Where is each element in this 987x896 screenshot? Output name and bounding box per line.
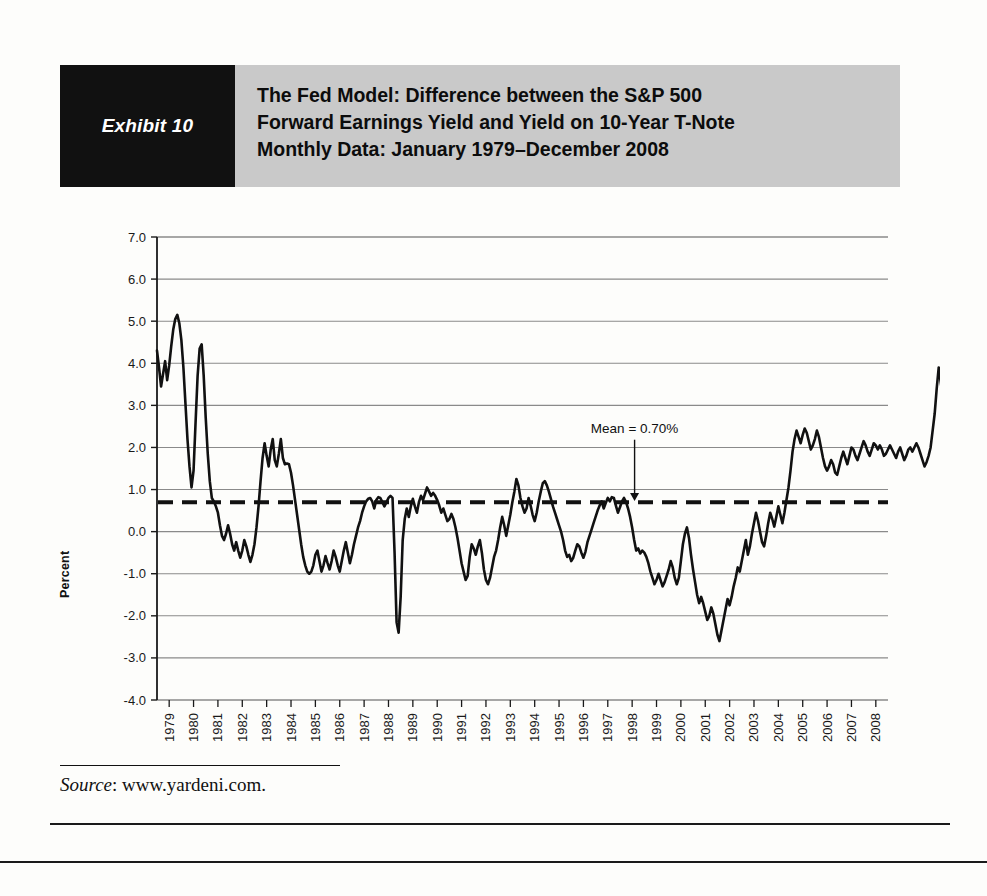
x-axis-tick-label: 1991 bbox=[454, 713, 469, 742]
exhibit-title-line-1: The Fed Model: Difference between the S&… bbox=[257, 82, 886, 109]
source-line: Source: www.yardeni.com. bbox=[60, 774, 266, 796]
y-axis-tick-label: 3.0 bbox=[128, 398, 146, 413]
x-axis-tick-label: 1998 bbox=[625, 713, 640, 742]
x-axis-tick-label: 1982 bbox=[235, 713, 250, 742]
mean-annotation-arrow-head bbox=[630, 493, 639, 501]
line-chart: 7.06.05.04.03.02.01.00.0-1.0-2.0-3.0-4.0… bbox=[60, 200, 940, 760]
exhibit-page: Exhibit 10 The Fed Model: Difference bet… bbox=[0, 0, 987, 896]
y-axis-tick-label: 5.0 bbox=[128, 314, 146, 329]
x-axis-tick-label: 1994 bbox=[527, 713, 542, 742]
y-axis-tick-label: -4.0 bbox=[124, 693, 146, 708]
source-value: www.yardeni.com. bbox=[122, 774, 266, 795]
exhibit-title-line-2: Forward Earnings Yield and Yield on 10-Y… bbox=[257, 109, 886, 136]
x-axis-tick-label: 2003 bbox=[746, 713, 761, 742]
x-axis-tick-label: 1997 bbox=[600, 713, 615, 742]
x-axis-tick-label: 1986 bbox=[332, 713, 347, 742]
x-axis-tick-label: 1990 bbox=[430, 713, 445, 742]
x-axis-tick-label: 1989 bbox=[405, 713, 420, 742]
x-axis-tick-label: 1980 bbox=[186, 713, 201, 742]
x-axis-tick-label: 2001 bbox=[698, 713, 713, 742]
x-axis-tick-label: 2007 bbox=[844, 713, 859, 742]
x-axis-tick-label: 2004 bbox=[771, 713, 786, 742]
x-axis-tick-label: 1979 bbox=[162, 713, 177, 742]
page-rule-bottom bbox=[0, 861, 987, 863]
y-axis-tick-label: 2.0 bbox=[128, 440, 146, 455]
x-axis-tick-label: 1999 bbox=[649, 713, 664, 742]
mean-annotation-label: Mean = 0.70% bbox=[591, 421, 678, 436]
x-axis-tick-label: 1984 bbox=[284, 713, 299, 742]
y-axis-tick-label: -1.0 bbox=[124, 566, 146, 581]
x-axis-tick-label: 1987 bbox=[357, 713, 372, 742]
exhibit-header: Exhibit 10 The Fed Model: Difference bet… bbox=[60, 65, 900, 187]
page-rule-middle bbox=[50, 823, 950, 825]
y-axis-tick-label: 7.0 bbox=[128, 230, 146, 245]
exhibit-number-badge: Exhibit 10 bbox=[60, 65, 235, 187]
source-label: Source bbox=[60, 774, 112, 795]
y-axis-tick-label: 4.0 bbox=[128, 356, 146, 371]
y-axis-tick-label: -2.0 bbox=[124, 608, 146, 623]
y-axis-tick-label: 1.0 bbox=[128, 482, 146, 497]
x-axis-tick-label: 1981 bbox=[210, 713, 225, 742]
exhibit-title: The Fed Model: Difference between the S&… bbox=[235, 65, 900, 187]
exhibit-number-label: Exhibit 10 bbox=[102, 115, 194, 137]
x-axis-tick-label: 2000 bbox=[673, 713, 688, 742]
x-axis-tick-label: 1988 bbox=[381, 713, 396, 742]
x-axis-tick-label: 2002 bbox=[722, 713, 737, 742]
x-axis-tick-label: 1996 bbox=[576, 713, 591, 742]
source-rule bbox=[60, 765, 340, 766]
x-axis-tick-label: 1993 bbox=[503, 713, 518, 742]
x-axis-tick-label: 2005 bbox=[795, 713, 810, 742]
y-axis-tick-label: -3.0 bbox=[124, 650, 146, 665]
x-axis-tick-label: 2006 bbox=[820, 713, 835, 742]
x-axis-tick-label: 2008 bbox=[868, 713, 883, 742]
source-separator: : bbox=[112, 774, 122, 795]
x-axis-tick-label: 1995 bbox=[552, 713, 567, 742]
chart-container: Percent 7.06.05.04.03.02.01.00.0-1.0-2.0… bbox=[60, 200, 940, 780]
y-axis-tick-label: 6.0 bbox=[128, 272, 146, 287]
x-axis-tick-label: 1992 bbox=[478, 713, 493, 742]
x-axis-tick-label: 1985 bbox=[308, 713, 323, 742]
y-axis-tick-label: 0.0 bbox=[128, 524, 146, 539]
exhibit-title-line-3: Monthly Data: January 1979–December 2008 bbox=[257, 136, 886, 163]
x-axis-tick-label: 1983 bbox=[259, 713, 274, 742]
